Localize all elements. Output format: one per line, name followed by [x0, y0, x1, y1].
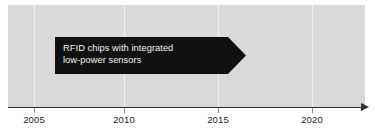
axis-arrowhead-icon — [361, 103, 369, 111]
tick-label-2020: 2020 — [301, 114, 323, 125]
milestone-label-line-1: RFID chips with integrated — [63, 42, 213, 54]
milestone-label: RFID chips with integrated low-power sen… — [63, 42, 213, 66]
tick-mark-2005 — [34, 108, 35, 113]
timeline-chart: RFID chips with integrated low-power sen… — [0, 0, 375, 136]
tick-label-2010: 2010 — [113, 114, 135, 125]
milestone-label-line-2: low-power sensors — [63, 54, 213, 66]
tick-label-2015: 2015 — [207, 114, 229, 125]
tick-mark-2010 — [124, 108, 125, 113]
tick-mark-2015 — [218, 108, 219, 113]
milestone-bar-rfid-chips[interactable]: RFID chips with integrated low-power sen… — [55, 37, 246, 74]
tick-mark-2020 — [312, 108, 313, 113]
tick-label-2005: 2005 — [23, 114, 45, 125]
x-axis-line — [8, 107, 362, 108]
gridline-2005 — [34, 5, 35, 108]
gridline-2020 — [312, 5, 313, 108]
